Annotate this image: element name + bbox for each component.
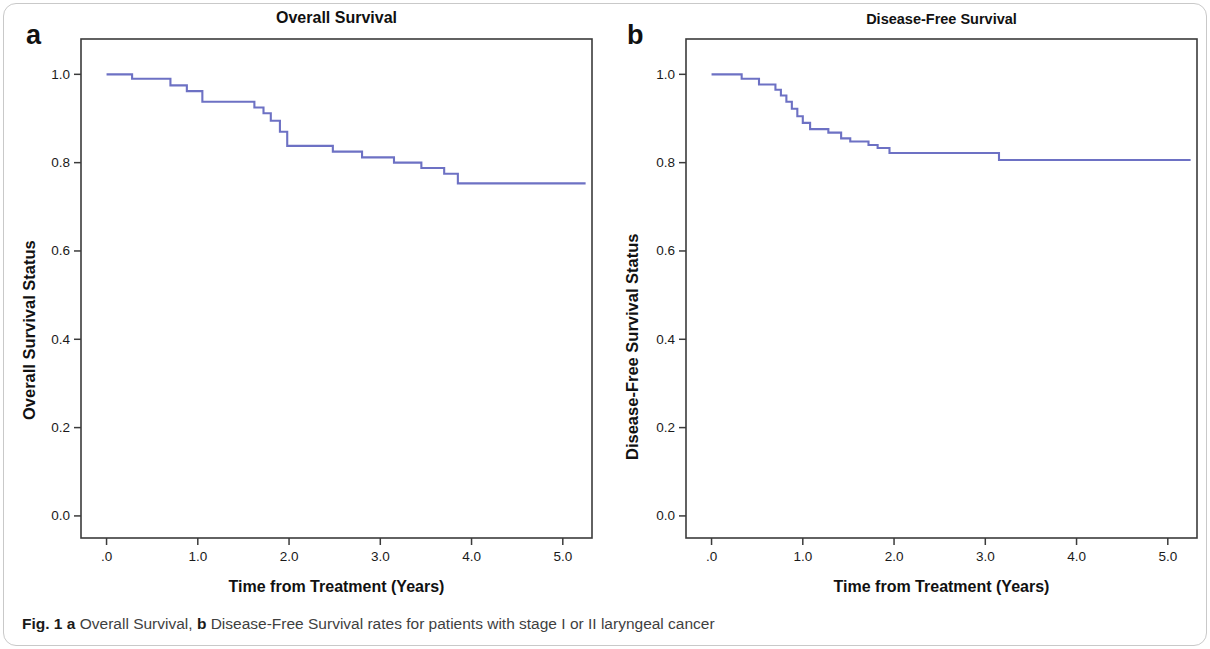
x-tick-label: 1.0	[188, 549, 207, 564]
x-tick-label: 4.0	[462, 549, 481, 564]
x-tick-label: .0	[101, 549, 112, 564]
x-tick-label: 4.0	[1067, 549, 1086, 564]
panel-b-plot-frame	[686, 39, 1197, 538]
panel-b-axes	[686, 39, 1197, 538]
caption-marker-b: b	[197, 615, 206, 632]
y-tick-label: 0.2	[656, 420, 675, 435]
y-tick-label: 0.0	[656, 508, 675, 523]
panel-a-plot: 0.00.20.40.60.81.0 .01.02.03.04.05.0	[0, 0, 605, 605]
x-tick-label: 1.0	[793, 549, 812, 564]
y-tick-label: 0.4	[51, 332, 70, 347]
y-tick-label: 0.4	[656, 332, 675, 347]
caption-text-a: Overall Survival,	[80, 615, 193, 632]
panel-b-survival-curve	[712, 74, 1191, 160]
panel-a-survival-curve	[107, 74, 586, 183]
x-tick-label: 5.0	[1158, 549, 1177, 564]
x-tick-label: 3.0	[976, 549, 995, 564]
x-tick-label: .0	[706, 549, 717, 564]
y-tick-label: 0.8	[656, 155, 675, 170]
panel-a-y-ticks: 0.00.20.40.60.81.0	[51, 67, 81, 524]
x-tick-label: 2.0	[280, 549, 299, 564]
y-tick-label: 0.0	[51, 508, 70, 523]
y-tick-label: 0.2	[51, 420, 70, 435]
y-tick-label: 0.8	[51, 155, 70, 170]
y-tick-label: 0.6	[656, 243, 675, 258]
panel-b-x-ticks: .01.02.03.04.05.0	[706, 538, 1177, 564]
panel-b: b Disease-Free Survival Disease-Free Sur…	[605, 0, 1210, 605]
panel-a-plot-frame	[81, 39, 592, 538]
x-tick-label: 5.0	[553, 549, 572, 564]
panel-b-y-ticks: 0.00.20.40.60.81.0	[656, 67, 686, 524]
figure-container: a Overall Survival Overall Survival Stat…	[0, 0, 1210, 649]
panel-a: a Overall Survival Overall Survival Stat…	[0, 0, 605, 605]
panel-a-x-ticks: .01.02.03.04.05.0	[101, 538, 572, 564]
panel-b-plot: 0.00.20.40.60.81.0 .01.02.03.04.05.0	[605, 0, 1210, 605]
y-tick-label: 1.0	[51, 67, 70, 82]
x-tick-label: 2.0	[885, 549, 904, 564]
panel-a-axes	[81, 39, 592, 538]
caption-text-b: Disease-Free Survival rates for patients…	[211, 615, 715, 632]
x-tick-label: 3.0	[371, 549, 390, 564]
y-tick-label: 0.6	[51, 243, 70, 258]
figure-caption: Fig. 1 a Overall Survival, b Disease-Fre…	[22, 614, 1182, 634]
caption-figure-number: Fig. 1	[22, 615, 62, 632]
y-tick-label: 1.0	[656, 67, 675, 82]
